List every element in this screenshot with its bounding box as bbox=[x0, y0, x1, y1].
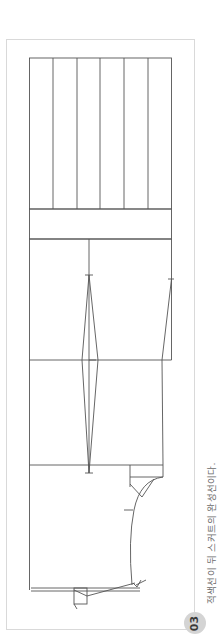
hip-curve bbox=[124, 465, 163, 585]
step-number: 03 bbox=[189, 615, 202, 630]
step-number-badge: 03 bbox=[184, 612, 206, 634]
waist-strip bbox=[30, 209, 172, 239]
side-seam-shaping bbox=[162, 279, 174, 465]
dart-center bbox=[82, 239, 98, 473]
hem-line bbox=[31, 580, 146, 609]
skirt-pattern-diagram bbox=[0, 0, 222, 639]
figure-caption: 적색선이 뒤 스커트의 완성선이다. bbox=[204, 462, 218, 604]
waistband-section bbox=[30, 58, 172, 209]
skirt-body-outline bbox=[30, 239, 172, 590]
